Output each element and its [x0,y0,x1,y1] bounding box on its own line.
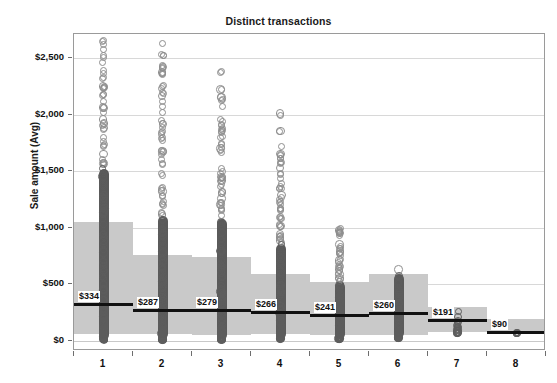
scatter-point [219,273,226,280]
scatter-point [100,268,107,275]
scatter-point [159,172,166,179]
x-tick-label-8: 8 [501,358,531,369]
mean-value-label: $266 [255,299,277,310]
x-tick-label-3: 3 [206,358,236,369]
mean-reference-line [487,331,545,334]
scatter-point [159,285,166,292]
x-tick-label-7: 7 [442,358,472,369]
x-tick-mark-2 [191,351,192,356]
chart-title: Distinct transactions [0,15,557,27]
mean-reference-line [133,309,192,312]
chart-container: Distinct transactions Sale amount (Avg) … [0,0,557,383]
y-tick-mark-2000 [68,114,72,115]
mean-value-label: $191 [432,307,454,318]
scatter-point [100,183,107,190]
gridline-2500 [74,58,544,59]
scatter-point [100,119,109,128]
scatter-point [159,109,166,116]
scatter-point [453,328,462,337]
mean-value-label: $241 [314,302,336,313]
scatter-point [160,302,167,309]
scatter-point [100,143,107,150]
mean-reference-line [74,303,133,306]
scatter-point [99,211,106,218]
x-tick-mark-3 [250,351,251,356]
y-tick-label-1500: $1,500 [0,164,64,175]
scatter-point [218,165,225,172]
scatter-point [158,209,165,216]
scatter-point [159,71,166,78]
scatter-point [100,134,107,141]
scatter-point [277,175,284,182]
scatter-point [278,194,285,201]
x-tick-mark-5 [368,351,369,356]
scatter-point [160,82,167,89]
plot-inner: $334$287$279$266$241$260$191$90 [74,34,544,349]
scatter-point [278,143,285,150]
scatter-point [277,160,284,167]
plot-area: $334$287$279$266$241$260$191$90 [73,33,545,350]
scatter-point [159,161,166,168]
mean-value-label: $334 [78,291,100,302]
scatter-point [159,134,166,141]
y-tick-label-2500: $2,500 [0,51,64,62]
scatter-point [159,316,166,323]
mean-reference-line [192,309,251,312]
y-tick-mark-500 [68,283,72,284]
y-tick-mark-2500 [68,57,72,58]
scatter-point [218,205,225,212]
gridline-0 [74,341,544,342]
scatter-point [99,150,108,159]
scatter-point [159,40,166,47]
scatter-point [100,246,107,253]
scatter-point [158,264,165,271]
scatter-point [219,103,226,110]
gridline-1500 [74,171,544,172]
scatter-point [99,75,106,82]
gridline-2000 [74,115,544,116]
scatter-point [100,174,107,181]
y-tick-label-0: $0 [0,334,64,345]
mean-reference-line [369,312,428,315]
scatter-point [159,243,166,250]
mean-value-label: $260 [373,300,395,311]
x-tick-label-2: 2 [147,358,177,369]
scatter-point [217,93,226,102]
scatter-point [158,336,165,343]
scatter-point [101,309,108,316]
y-tick-mark-1000 [68,227,72,228]
scatter-point [100,257,107,264]
gridline-1000 [74,228,544,229]
y-tick-label-2000: $2,000 [0,108,64,119]
scatter-point [99,59,106,66]
scatter-point [276,127,285,136]
scatter-point [277,314,284,321]
scatter-point [335,265,344,274]
scatter-point [100,52,107,59]
x-tick-label-5: 5 [324,358,354,369]
mean-reference-line [251,311,310,314]
x-tick-label-4: 4 [265,358,295,369]
y-tick-mark-0 [68,340,72,341]
mean-value-label: $279 [196,297,218,308]
x-tick-mark-4 [309,351,310,356]
scatter-point [100,67,107,74]
scatter-point [335,284,344,293]
scatter-point [277,267,286,276]
scatter-point [455,308,462,315]
scatter-point [216,247,225,256]
mean-reference-line [428,319,487,322]
mean-reference-line [310,314,369,317]
scatter-point [336,326,343,333]
x-tick-mark-6 [427,351,428,356]
y-tick-mark-1500 [68,170,72,171]
y-tick-label-500: $500 [0,277,64,288]
x-tick-label-6: 6 [383,358,413,369]
x-tick-mark-0 [73,351,74,356]
scatter-point [218,149,225,156]
scatter-point [219,289,226,296]
scatter-point [100,221,107,228]
scatter-point [277,112,284,119]
scatter-point [159,148,166,155]
scatter-point [218,68,225,75]
